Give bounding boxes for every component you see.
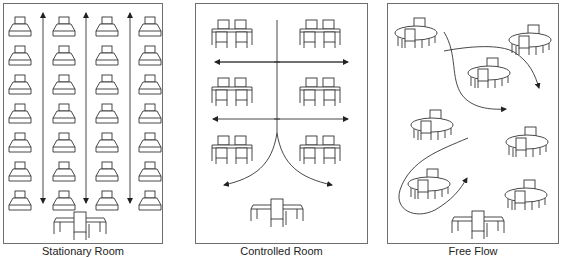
round-table-icon xyxy=(509,25,551,55)
desk-icon xyxy=(139,162,161,181)
desk-icon xyxy=(9,46,31,65)
desk-icon xyxy=(53,104,75,123)
desk-icon xyxy=(53,162,75,181)
round-table-icon xyxy=(505,180,547,210)
desk-icon xyxy=(9,133,31,152)
desk-icon xyxy=(96,46,118,65)
desk-icon xyxy=(139,191,161,210)
desk-icon xyxy=(9,104,31,123)
desk-icon xyxy=(139,75,161,94)
desk-icon xyxy=(139,104,161,123)
desk-icon xyxy=(9,191,31,210)
desk-icon xyxy=(96,17,118,36)
round-table-icon xyxy=(468,58,510,88)
controlled-room-label: Controlled Room xyxy=(195,245,368,257)
table-group-icon xyxy=(212,20,252,48)
desk-icon xyxy=(96,191,118,210)
desk-icon xyxy=(53,191,75,210)
table-group-icon xyxy=(300,78,340,106)
desk-icon xyxy=(9,162,31,181)
table-group-icon xyxy=(300,136,340,164)
desk-icon xyxy=(53,17,75,36)
desk-icon xyxy=(9,17,31,36)
controlled-room-groups xyxy=(212,20,340,164)
desk-icon xyxy=(53,75,75,94)
desk-icon xyxy=(96,75,118,94)
desk-icon xyxy=(139,133,161,152)
stationary-room-desks xyxy=(9,17,161,210)
free-flow-label: Free Flow xyxy=(387,245,559,257)
teacher-desk-icon xyxy=(251,199,303,227)
desk-icon xyxy=(96,162,118,181)
round-table-icon xyxy=(395,18,437,48)
stationary-room-label: Stationary Room xyxy=(3,245,163,257)
round-table-icon xyxy=(408,169,450,199)
round-table-icon xyxy=(411,110,453,140)
desk-icon xyxy=(53,133,75,152)
round-table-icon xyxy=(506,127,548,157)
desk-icon xyxy=(139,46,161,65)
teacher-desk-icon xyxy=(452,211,504,239)
table-group-icon xyxy=(300,20,340,48)
desk-icon xyxy=(9,75,31,94)
desk-icon xyxy=(96,133,118,152)
controlled-room-arrows xyxy=(213,20,348,185)
desk-icon xyxy=(53,46,75,65)
desk-icon xyxy=(96,104,118,123)
teacher-desk-icon xyxy=(54,212,106,240)
table-group-icon xyxy=(212,136,252,164)
desk-icon xyxy=(139,17,161,36)
table-group-icon xyxy=(212,78,252,106)
